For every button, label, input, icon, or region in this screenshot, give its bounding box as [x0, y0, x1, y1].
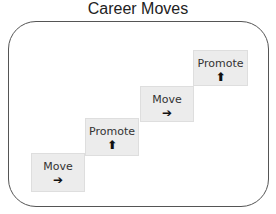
step-label: Move: [141, 93, 193, 106]
arrow-up-icon: ⬆: [194, 70, 247, 84]
step-move-1: Move ➔: [31, 153, 85, 192]
step-label: Move: [32, 160, 84, 173]
step-promote-2: Promote ⬆: [193, 50, 248, 86]
arrow-right-icon: ➔: [32, 173, 84, 187]
arrow-up-icon: ⬆: [86, 138, 138, 152]
diagram-title: Career Moves: [0, 0, 276, 18]
step-promote-1: Promote ⬆: [85, 118, 139, 156]
step-label: Promote: [194, 57, 247, 70]
step-label: Promote: [86, 125, 138, 138]
step-move-2: Move ➔: [140, 86, 194, 122]
arrow-right-icon: ➔: [141, 106, 193, 120]
